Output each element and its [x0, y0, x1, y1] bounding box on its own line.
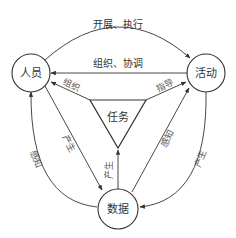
edge-label-people-produce: 产生 [60, 133, 78, 154]
edge-label-people-perceive: 感知 [28, 148, 45, 169]
edge-data-to-people [31, 92, 97, 207]
diagram-canvas: 开展、执行 组织、协调 组织 指导 任务 产生 产生 感知 感知 产生 人员 活… [0, 0, 236, 238]
edge-label-activity-perceive: 感知 [158, 128, 176, 149]
edge-label-execute: 开展、执行 [93, 18, 143, 30]
edge-label-coordinate: 组织、协调 [93, 57, 143, 69]
edge-activity-to-data [140, 92, 206, 207]
edge-people-to-activity [45, 27, 190, 60]
edge-label-guide: 指导 [154, 76, 175, 93]
edge-label-organize: 组织 [61, 76, 82, 93]
activity-label: 活动 [195, 67, 217, 80]
task-node [90, 100, 146, 148]
edge-label-activity-produce: 产生 [191, 148, 208, 169]
task-label: 任务 [107, 111, 129, 124]
people-label: 人员 [20, 67, 42, 80]
edge-label-data-produce-task: 产生 [103, 161, 114, 179]
data-label: 数据 [107, 202, 129, 216]
